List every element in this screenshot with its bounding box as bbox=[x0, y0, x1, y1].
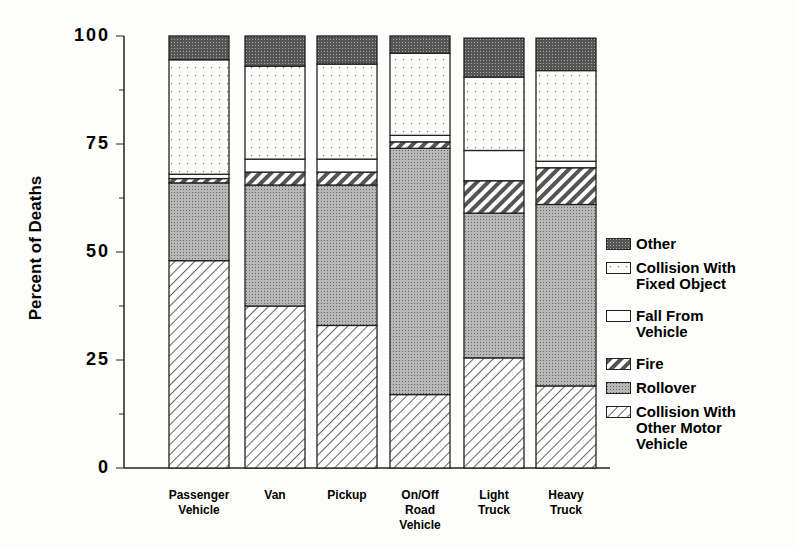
bar-segment bbox=[245, 36, 305, 66]
bar-segment bbox=[317, 36, 377, 64]
bar-segment bbox=[317, 159, 377, 172]
legend-swatch bbox=[606, 310, 631, 322]
bar-segment bbox=[390, 395, 450, 468]
x-category-label: Heavy Truck bbox=[516, 488, 616, 518]
bar bbox=[464, 38, 524, 468]
bar-segment bbox=[536, 38, 596, 70]
bar-segment bbox=[317, 325, 377, 468]
y-tick-label: 100 bbox=[60, 25, 110, 46]
bar bbox=[390, 36, 450, 468]
y-tick-label: 75 bbox=[60, 133, 110, 154]
bar-segment bbox=[390, 148, 450, 394]
bar-segment bbox=[464, 213, 524, 358]
bar-segment bbox=[390, 36, 450, 53]
bar-segment bbox=[390, 135, 450, 141]
bar-segment bbox=[169, 261, 229, 468]
bar-segment bbox=[464, 150, 524, 180]
bar-segment bbox=[390, 142, 450, 148]
bar bbox=[317, 36, 377, 468]
legend-swatch bbox=[606, 358, 631, 370]
y-tick-label: 50 bbox=[60, 241, 110, 262]
bar-segment bbox=[464, 77, 524, 150]
bar-segment bbox=[317, 64, 377, 159]
y-tick-label: 25 bbox=[60, 349, 110, 370]
bar bbox=[536, 38, 596, 468]
bar-segment bbox=[169, 36, 229, 60]
bar-segment bbox=[245, 159, 305, 172]
bar-segment bbox=[245, 66, 305, 159]
bar-segment bbox=[536, 71, 596, 162]
bar-segment bbox=[464, 181, 524, 213]
bar-segment bbox=[317, 185, 377, 325]
bar-segment bbox=[536, 161, 596, 167]
y-tick-label: 0 bbox=[60, 457, 110, 478]
bar-segment bbox=[245, 172, 305, 185]
bar-segment bbox=[536, 168, 596, 205]
legend-swatch bbox=[606, 238, 631, 250]
bar bbox=[245, 36, 305, 468]
bar-segment bbox=[390, 53, 450, 135]
bar bbox=[169, 36, 229, 468]
legend-swatch bbox=[606, 406, 631, 418]
legend-swatch bbox=[606, 262, 631, 274]
bar-segment bbox=[464, 358, 524, 468]
legend-swatch bbox=[606, 382, 631, 394]
bar-segment bbox=[464, 38, 524, 77]
bar-segment bbox=[317, 172, 377, 185]
bar-segment bbox=[245, 185, 305, 306]
bar-segment bbox=[169, 60, 229, 174]
bar-segment bbox=[169, 183, 229, 261]
bar-segment bbox=[536, 386, 596, 468]
bar-segment bbox=[245, 306, 305, 468]
bar-segment bbox=[536, 204, 596, 385]
